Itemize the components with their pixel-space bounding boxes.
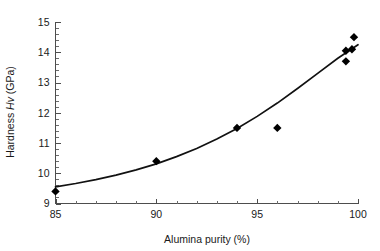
chart-plot-svg: 9101112131415 859095100 Alumina purity (… (0, 0, 380, 251)
x-tick-label: 85 (50, 208, 62, 220)
data-point-marker (350, 33, 358, 41)
y-tick-label: 12 (38, 107, 50, 119)
data-point-marker (342, 47, 350, 55)
x-tick-label: 100 (349, 208, 367, 220)
y-tick-label: 13 (38, 76, 50, 88)
x-axis-title: Alumina purity (%) (164, 233, 250, 245)
y-axis-title: Hardness Hv (GPa) (4, 66, 16, 158)
x-tick-label: 95 (251, 208, 263, 220)
y-tick-label: 15 (38, 16, 50, 28)
data-point-marker (51, 187, 59, 195)
x-tick-label: 90 (150, 208, 162, 220)
data-markers-group (51, 33, 358, 196)
axes-group (56, 22, 359, 204)
chart-figure: 9101112131415 859095100 Alumina purity (… (0, 0, 380, 251)
x-axis-ticks (57, 199, 359, 204)
fit-curve (56, 45, 359, 187)
y-tick-label: 14 (38, 46, 50, 58)
data-point-marker (342, 57, 350, 65)
y-tick-label: 11 (39, 137, 50, 149)
x-axis-tick-labels: 859095100 (50, 208, 367, 220)
y-tick-label: 10 (38, 167, 50, 179)
y-axis-ticks (56, 23, 61, 205)
y-axis-tick-labels: 9101112131415 (38, 16, 50, 210)
data-point-marker (273, 124, 281, 132)
